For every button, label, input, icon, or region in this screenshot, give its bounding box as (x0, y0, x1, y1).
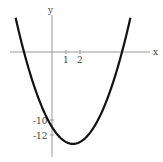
x-axis-label: x (153, 47, 158, 57)
y-axis-label: y (47, 5, 54, 15)
parabola-chart: y x 1 2 -10 -12 (0, 0, 163, 162)
x-tick-label-1: 1 (63, 55, 69, 65)
x-tick-label-2: 2 (77, 55, 83, 65)
y-tick-label-12: -12 (33, 131, 48, 141)
